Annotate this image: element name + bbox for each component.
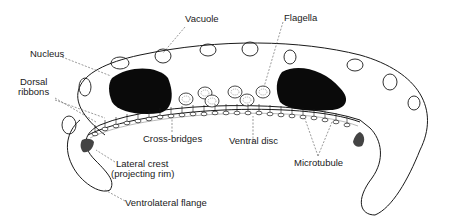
label-cross-bridges: Cross-bridges (143, 134, 202, 144)
label-microtubule: Microtubule (294, 158, 343, 168)
label-nucleus: Nucleus (30, 49, 64, 59)
giardia-diagram (0, 0, 453, 220)
lateral-crest-left (81, 139, 94, 152)
label-vacuole: Vacuole (185, 14, 219, 24)
nucleus-right (277, 68, 346, 111)
microtubules (92, 111, 350, 136)
flagella (179, 86, 270, 107)
label-flagella: Flagella (284, 13, 317, 23)
label-ventrolateral-flange: Ventrolateral flange (125, 198, 207, 208)
label-ventral-disc: Ventral disc (229, 136, 278, 146)
label-lateral-crest-2: (projecting rim) (111, 169, 174, 179)
lateral-crest-right (353, 132, 364, 147)
label-dorsal-ribbons-2: ribbons (18, 87, 49, 97)
nucleus-left (109, 69, 172, 114)
